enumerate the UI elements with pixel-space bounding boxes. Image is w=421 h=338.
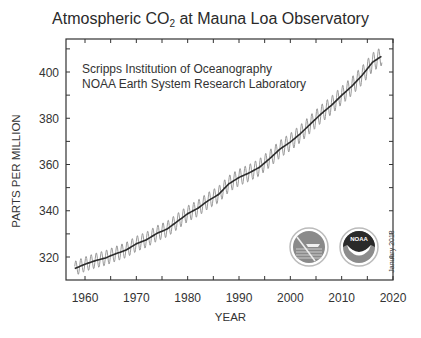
y-tick-label: 320: [39, 251, 59, 265]
date-note: January 2018: [388, 222, 395, 282]
x-tick-label: 1990: [226, 291, 253, 305]
x-tick-label: 2020: [380, 291, 407, 305]
x-tick-label: 1960: [72, 291, 99, 305]
credit-noaa: NOAA Earth System Research Laboratory: [82, 77, 306, 91]
x-tick-label: 2010: [328, 291, 355, 305]
y-tick-label: 380: [39, 112, 59, 126]
credit-scripps: Scripps Institution of Oceanography: [82, 62, 272, 76]
noaa-logo-text: NOAA: [350, 236, 368, 242]
y-tick-label: 360: [39, 158, 59, 172]
x-tick-label: 2000: [277, 291, 304, 305]
x-axis-label: YEAR: [0, 311, 421, 323]
plot-area: 1960197019801990200020102020320340360380…: [0, 0, 421, 338]
y-tick-label: 340: [39, 204, 59, 218]
y-axis-label: PARTS PER MILLION: [10, 106, 22, 236]
scripps-logo-ship: [306, 244, 320, 247]
y-tick-label: 400: [39, 66, 59, 80]
x-tick-label: 1970: [123, 291, 150, 305]
x-tick-label: 1980: [174, 291, 201, 305]
